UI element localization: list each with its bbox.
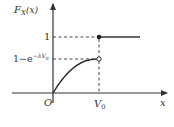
cdf-curve xyxy=(53,59,97,93)
y-axis-label: FX(x) xyxy=(13,4,39,17)
open-circle-marker xyxy=(97,57,101,61)
chart-svg: FX(x) 1 1−e−λV0 O V0 x xyxy=(0,0,174,127)
x-tick-v0: V0 xyxy=(94,98,105,111)
filled-dot-marker xyxy=(97,35,102,40)
tick-label-one: 1 xyxy=(44,31,50,42)
tick-label-jump: 1−e−λV0 xyxy=(13,52,49,64)
origin-label: O xyxy=(44,97,52,108)
cdf-chart: FX(x) 1 1−e−λV0 O V0 x xyxy=(0,0,174,127)
x-axis-label: x xyxy=(160,97,166,108)
